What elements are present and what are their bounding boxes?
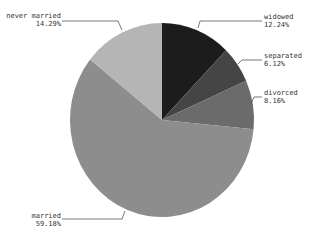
pie-slices [70, 23, 254, 217]
label-divorced-pct: 8.16% [264, 97, 298, 105]
label-divorced: divorced 8.16% [264, 89, 298, 105]
label-never-married: never married 14.29% [6, 12, 61, 28]
leader-line-married [62, 211, 125, 219]
pie-chart [0, 0, 309, 238]
label-widowed: widowed 12.24% [264, 13, 294, 29]
label-separated-name: separated [264, 52, 302, 60]
label-widowed-name: widowed [264, 13, 294, 21]
label-widowed-pct: 12.24% [264, 21, 294, 29]
label-married: married 59.18% [31, 212, 61, 228]
label-never-married-pct: 14.29% [6, 20, 61, 28]
label-separated-pct: 6.12% [264, 60, 302, 68]
label-married-name: married [31, 212, 61, 220]
label-divorced-name: divorced [264, 89, 298, 97]
leader-line-separated [238, 60, 262, 64]
leader-line-divorced [251, 97, 262, 104]
leader-line-never-married [62, 21, 122, 30]
label-married-pct: 59.18% [31, 220, 61, 228]
label-never-married-name: never married [6, 12, 61, 20]
label-separated: separated 6.12% [264, 52, 302, 68]
leader-line-widowed [198, 21, 262, 28]
